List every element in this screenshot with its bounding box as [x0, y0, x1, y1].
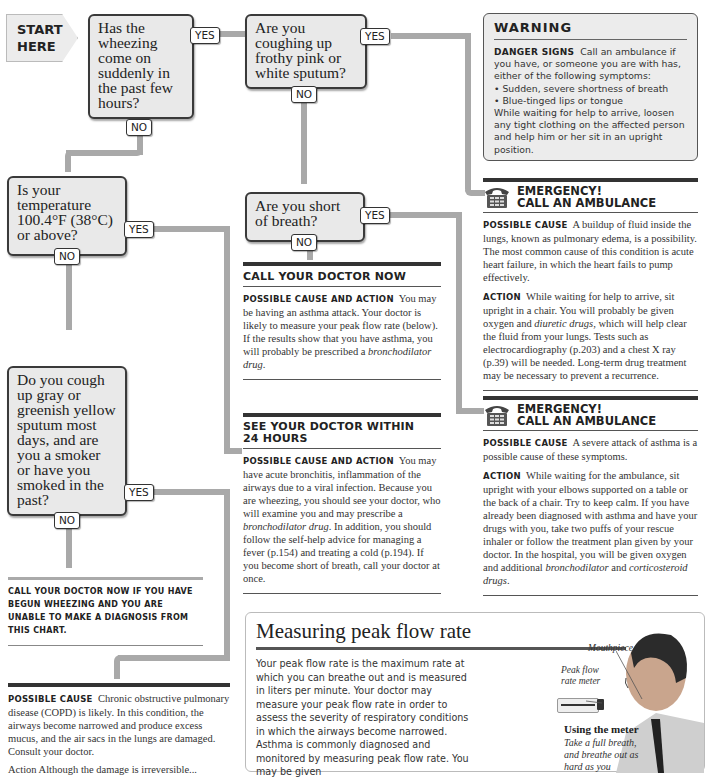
- divider: [494, 39, 687, 40]
- connector-q3-yes-end: [224, 448, 242, 454]
- warning-title: WARNING: [494, 20, 687, 35]
- section-title-line2: 24 HOURS: [243, 433, 441, 445]
- call-doctor-now-text: Possible cause and action You may be hav…: [243, 292, 441, 371]
- question-text: Do you cough up gray or greenish yellow …: [17, 371, 116, 508]
- section-bar: [483, 178, 698, 182]
- emergency-section-1: EMERGENCY! CALL AN AMBULANCE Possible ca…: [483, 178, 698, 391]
- connector-q2-no: [301, 100, 307, 184]
- cause-label: Possible cause: [483, 220, 568, 230]
- connector-q2-yes-v: [465, 33, 471, 195]
- emergency-header: EMERGENCY! CALL AN AMBULANCE: [483, 403, 698, 427]
- bullet-text: Blue-tinged lips or tongue: [502, 95, 623, 106]
- question-text: Is your temperature 100.4°F (38°C) or ab…: [17, 181, 113, 243]
- connector-q5-yes-h: [153, 489, 230, 495]
- yes-button-q2[interactable]: YES: [360, 28, 390, 45]
- divider: [243, 379, 441, 380]
- action-italic: diuretic drugs: [534, 318, 593, 329]
- callout-line: [586, 699, 606, 709]
- section-bar: [243, 413, 441, 417]
- divider: [483, 212, 698, 213]
- see-doctor-24h-text: Possible cause and action You may have a…: [243, 454, 441, 585]
- question-sudden-wheezing: Has the wheezing come on suddenly in the…: [88, 14, 194, 119]
- emergency1-action: Action While waiting for help to arrive,…: [483, 290, 698, 382]
- peak-flow-title: Measuring peak flow rate: [256, 619, 471, 644]
- section-bar: [8, 577, 203, 580]
- callout-line: [616, 651, 646, 701]
- no-button-q4[interactable]: NO: [291, 234, 317, 251]
- connector-q1-no-v: [65, 150, 71, 172]
- peak-flow-box: Measuring peak flow rate Your peak flow …: [245, 612, 705, 772]
- telephone-icon: [483, 404, 511, 426]
- section-title: CALL YOUR DOCTOR NOW: [243, 270, 441, 283]
- start-label: START HERE: [17, 22, 63, 54]
- section-bar: [483, 396, 698, 400]
- fallback-note-section: Call your doctor now if you have begun w…: [8, 577, 203, 646]
- section-bar: [8, 683, 230, 687]
- cause-action-label: Possible cause and action: [243, 294, 394, 304]
- question-frothy-sputum: Are you coughing up frothy pink or white…: [245, 14, 367, 89]
- question-text: Are you short of breath?: [255, 197, 340, 229]
- title-rule: [256, 647, 626, 650]
- cause-label: Possible cause: [8, 694, 93, 704]
- warning-bullet: • Blue-tinged lips or tongue: [494, 95, 687, 107]
- connector-q2-yes-h: [391, 33, 471, 39]
- connector-q5-yes-down: [114, 655, 120, 679]
- question-copd-smoker: Do you cough up gray or greenish yellow …: [7, 366, 127, 516]
- using-meter-title: Using the meter: [564, 723, 639, 735]
- connector-q4-yes-h: [390, 212, 462, 218]
- emergency-title-line2: CALL AN AMBULANCE: [517, 197, 656, 209]
- connector-q1-no-h: [66, 150, 143, 156]
- section-title: SEE YOUR DOCTOR WITHIN 24 HOURS: [243, 421, 441, 445]
- meter-callout: Peak flow rate meter: [561, 665, 609, 687]
- copd-section: Possible cause Chronic obstructive pulmo…: [8, 683, 230, 776]
- section-bar: [243, 262, 441, 266]
- yes-button-q4[interactable]: YES: [360, 207, 390, 224]
- warning-body: Danger signs Call an ambulance if you ha…: [494, 46, 687, 156]
- connector-q3-yes-v: [224, 226, 230, 454]
- yes-button-q5[interactable]: YES: [124, 484, 154, 501]
- peak-flow-body: Your peak flow rate is the maximum rate …: [256, 657, 471, 779]
- action-italic: bronchodilator: [545, 562, 608, 573]
- connector-q4-yes-end: [456, 408, 484, 414]
- connector-q3-yes-h: [153, 226, 230, 232]
- emergency-header: EMERGENCY! CALL AN AMBULANCE: [483, 185, 698, 209]
- using-meter-text: Take a full breath, and breathe out as h…: [564, 737, 644, 773]
- start-here-marker: START HERE: [6, 14, 78, 62]
- question-text: Are you coughing up frothy pink or white…: [255, 19, 346, 81]
- divider: [8, 645, 203, 646]
- no-button-q5[interactable]: NO: [54, 512, 80, 529]
- copd-action-partial: Action Although the damage is irreversib…: [8, 763, 230, 776]
- cause-action-label: Possible cause and action: [243, 456, 394, 466]
- action-label: Action: [483, 471, 521, 481]
- divider: [243, 593, 441, 594]
- emergency2-cause: Possible cause A severe attack of asthma…: [483, 436, 698, 463]
- connector-q1-yes: [219, 31, 247, 37]
- yes-button-q3[interactable]: YES: [124, 221, 154, 238]
- warning-bullet: • Sudden, severe shortness of breath: [494, 83, 687, 95]
- no-button-q1[interactable]: NO: [126, 119, 152, 136]
- danger-signs-label: Danger signs: [494, 47, 574, 57]
- action-text: .: [507, 575, 510, 586]
- connector-q2-yes-end: [465, 190, 485, 196]
- divider: [243, 448, 441, 449]
- cause-label: Possible cause: [483, 438, 568, 448]
- fallback-note-text: Call your doctor now if you have begun w…: [8, 585, 203, 637]
- question-temperature: Is your temperature 100.4°F (38°C) or ab…: [7, 176, 127, 256]
- emergency-section-2: EMERGENCY! CALL AN AMBULANCE Possible ca…: [483, 396, 698, 596]
- divider: [483, 390, 698, 391]
- divider: [483, 595, 698, 596]
- copd-cause: Possible cause Chronic obstructive pulmo…: [8, 692, 230, 758]
- no-button-q3[interactable]: NO: [54, 248, 80, 265]
- no-button-q2[interactable]: NO: [291, 86, 317, 103]
- connector-q5-no: [66, 528, 72, 568]
- emergency-title-line2: CALL AN AMBULANCE: [517, 415, 656, 427]
- yes-button-q1[interactable]: YES: [190, 27, 220, 44]
- body-italic: bronchodilator drug: [243, 521, 329, 532]
- see-doctor-24h-section: SEE YOUR DOCTOR WITHIN 24 HOURS Possible…: [243, 413, 441, 594]
- connector-q5-yes-back: [118, 655, 230, 661]
- question-text: Has the wheezing come on suddenly in the…: [98, 19, 173, 111]
- warning-box: WARNING Danger signs Call an ambulance i…: [483, 13, 698, 161]
- warning-after-text: While waiting for help to arrive, loosen…: [494, 107, 685, 155]
- bullet-text: Sudden, severe shortness of breath: [502, 83, 668, 94]
- body-text: .: [263, 359, 266, 370]
